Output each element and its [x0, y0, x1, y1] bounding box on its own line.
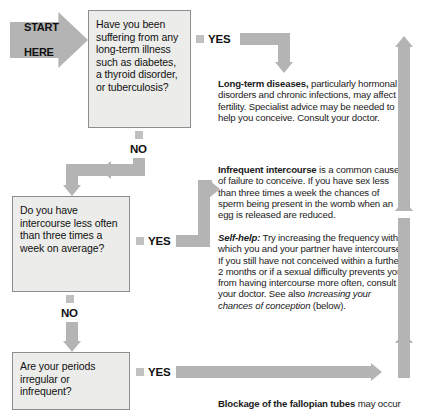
- advice-long-term-lead: Long-term diseases,: [218, 78, 308, 89]
- return-arrowhead-lower: [395, 332, 413, 343]
- yes-bullet-q3: [136, 368, 144, 376]
- question-text: Are your periods irregular or infrequent…: [20, 360, 95, 397]
- start-here-arrow: START HERE: [10, 12, 88, 68]
- return-connector-column-upper: [398, 46, 410, 210]
- yes-bullet-q1: [196, 35, 204, 43]
- return-connector-column-lower: [398, 218, 410, 342]
- no-label-q1: NO: [130, 143, 147, 155]
- advice-self-help: Self-help: Try increasing the frequency …: [218, 232, 404, 311]
- advice-blockage-body: may occur: [355, 398, 400, 409]
- no-bullet-q2: [66, 295, 74, 303]
- advice-infrequent-intercourse: Infrequent intercourse is a common cause…: [218, 164, 404, 220]
- yes-arrowhead-q1: [275, 62, 293, 73]
- yes-connector-q3-horizontal: [176, 366, 372, 378]
- no-label-q2: NO: [61, 307, 78, 319]
- no-arrowhead-q1-down: [63, 185, 81, 196]
- return-connector-bottom-vertical: [398, 342, 410, 378]
- question-text: Do you have intercourse less often than …: [20, 204, 118, 254]
- no-connector-q1-horizontal: [78, 164, 145, 176]
- no-arrowhead-q2: [63, 341, 81, 352]
- question-text: Have you been suffering from any long-te…: [96, 18, 178, 93]
- no-arrowhead-q1-left: [100, 161, 111, 179]
- return-arrowhead-middle: [395, 200, 413, 211]
- yes-label-q1: YES: [208, 33, 230, 45]
- start-here-line1: START: [17, 21, 59, 34]
- yes-label-q3: YES: [148, 366, 170, 378]
- yes-arrowhead-q3: [371, 363, 382, 381]
- advice-long-term-diseases: Long-term diseases, particularly hormona…: [218, 78, 404, 123]
- no-connector-q1-down: [66, 164, 78, 186]
- no-connector-q2-vertical: [66, 322, 78, 342]
- question-box-periods-irregular: Are your periods irregular or infrequent…: [12, 352, 130, 410]
- yes-label-q2: YES: [148, 235, 170, 247]
- question-box-long-term-illness: Have you been suffering from any long-te…: [88, 10, 191, 128]
- yes-connector-q2-top: [198, 180, 212, 192]
- advice-infrequent-lead: Infrequent intercourse: [218, 164, 317, 175]
- advice-blockage-fallopian-tubes: Blockage of the fallopian tubes may occu…: [218, 398, 423, 409]
- yes-bullet-q2: [136, 237, 144, 245]
- return-arrowhead-top: [395, 36, 413, 47]
- advice-self-help-lead: Self-help:: [218, 232, 260, 243]
- advice-self-help-body-2: (below).: [310, 300, 345, 311]
- fertility-flowchart: START HERE Have you been suffering from …: [0, 0, 429, 411]
- question-box-intercourse-frequency: Do you have intercourse less often than …: [12, 196, 130, 292]
- advice-blockage-lead: Blockage of the fallopian tubes: [218, 398, 355, 409]
- no-bullet-q1: [135, 131, 143, 139]
- start-here-line2: HERE: [17, 46, 59, 59]
- yes-connector-q1-vertical: [278, 33, 290, 63]
